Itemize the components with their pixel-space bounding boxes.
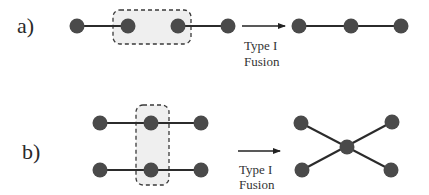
node [194,116,209,131]
node [385,115,400,130]
arrow-caption-line1: Type I [239,162,272,177]
arrow-caption-line2: Fusion [244,54,280,69]
panel-a-label: a) [17,13,34,38]
node [384,163,399,178]
node [294,116,309,131]
panel-b-label: b) [22,139,40,164]
node [221,19,236,34]
node [171,19,186,34]
node [121,19,136,34]
node [93,163,108,178]
panel-a: a) Type I Fusion [17,10,409,69]
node [194,163,209,178]
panel-b: b) Type I Fusion [22,105,400,192]
node [70,19,85,34]
node [144,116,159,131]
node [295,163,310,178]
node [93,116,108,131]
node [144,163,159,178]
arrow-caption-line2: Fusion [239,177,275,192]
arrow-caption-line1: Type I [244,38,277,53]
node [292,19,307,34]
fusion-diagram: a) Type I Fusion b) [0,0,429,195]
center-node [340,140,355,155]
node [394,19,409,34]
node [344,19,359,34]
